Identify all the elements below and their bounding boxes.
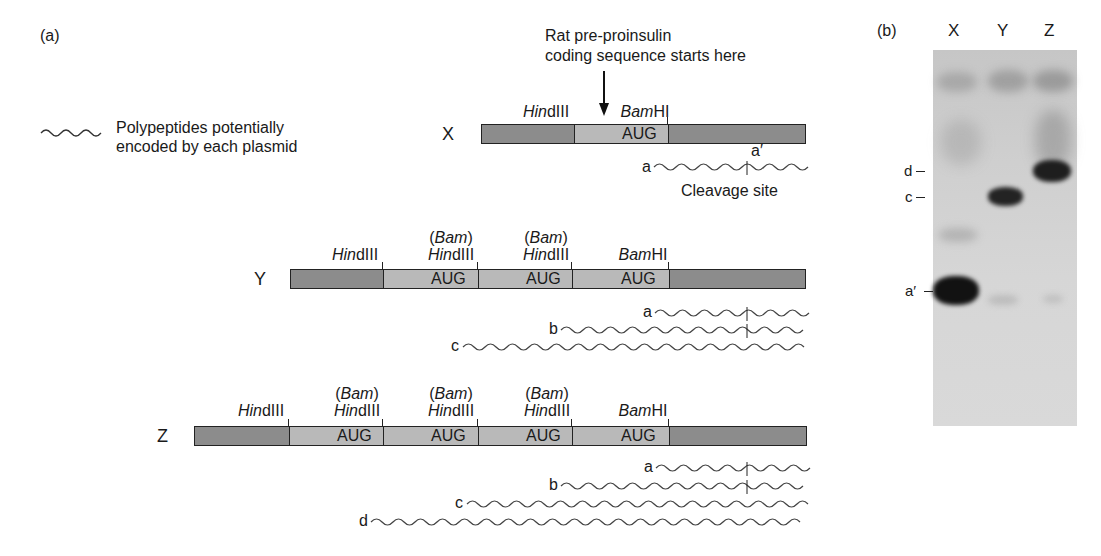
polypeptide-d-wave [371,516,807,528]
aug-codon: AUG [431,426,466,446]
hindiii-site-label: HindIII [428,402,474,420]
boundary [383,427,384,445]
boundary [478,270,479,288]
polypeptide-c-label: c [451,338,459,354]
lane-z-label: Z [1044,22,1054,40]
hindiii-site-label: HindIII [238,402,284,420]
aug-codon: AUG [526,426,561,446]
plasmid-x-label: X [442,124,454,145]
site-bam-italic: Bam [621,103,654,120]
panel-a-label: (a) [40,27,60,45]
aug-codon: AUG [621,426,656,446]
plasmid-y-bar: AUG AUG AUG [290,269,806,289]
boundary [478,427,479,445]
polypeptide-c-wave [467,498,807,510]
panel-b-label: (b) [877,22,897,40]
cleavage-site-label: Cleavage site [681,182,778,200]
aug-codon: AUG [431,269,466,289]
bamhi-site-label: BamHI [619,246,668,264]
plasmid-x-bar: AUG [481,124,806,144]
boundary [289,427,290,445]
polypeptide-c-wave [463,341,807,353]
marker-d-tick [916,171,925,172]
polypeptide-d-label: d [359,513,368,529]
plasmid-y-label: Y [254,269,266,290]
boundary [669,427,670,445]
polypeptide-a-label: a [642,159,651,175]
hindiii-site-label: HindIII [428,246,474,264]
bam-paren-label: (Bam) [429,385,473,403]
boundary [383,270,384,288]
polypeptide-a-label: a [644,459,653,475]
bam-paren-label: (Bam) [335,385,379,403]
faint-band [988,295,1018,305]
down-arrow-icon [598,71,610,117]
bam-paren-label: (Bam) [429,229,473,247]
site-hind-suffix: dIII [547,103,569,120]
polypeptide-b-label: b [549,321,558,337]
polypeptide-a-prime-label: a′ [751,143,763,159]
faint-band [937,72,977,92]
boundary [572,270,573,288]
aug-codon: AUG [526,269,561,289]
hindiii-site-label: HindIII [523,246,569,264]
polypeptide-b-wave [561,324,807,338]
marker-c-tick [916,197,925,198]
plasmid-z-label: Z [157,426,168,447]
hindiii-site-label: HindIII [523,103,569,121]
hindiii-boundary [574,125,575,143]
faint-band [1033,70,1073,92]
site-hind-italic: Hin [523,103,547,120]
faint-band [1043,295,1063,303]
annotation-line2: coding sequence starts here [545,47,746,65]
polypeptide-a-wave [656,462,807,476]
bamhi-boundary [668,125,669,143]
bam-paren-label: (Bam) [525,385,569,403]
polypeptide-a-label: a [643,304,652,320]
boundary [572,427,573,445]
aug-codon: AUG [337,426,372,446]
lane-y-label: Y [997,22,1008,40]
plasmid-z-bar: AUG AUG AUG AUG [194,426,807,446]
hindiii-site-label: HindIII [524,402,570,420]
faint-smear [941,120,981,165]
legend-text-line2: encoded by each plasmid [116,138,297,156]
marker-c-label: c [905,189,913,205]
polypeptide-a-wave [654,161,806,175]
band-x-a-prime [933,276,979,305]
polypeptide-c-label: c [455,495,463,511]
polypeptide-a-wave [655,307,807,321]
marker-d-label: d [904,163,912,179]
aug-codon: AUG [622,124,657,144]
bam-paren-label: (Bam) [524,229,568,247]
boundary [669,270,670,288]
gel-image [933,50,1077,426]
lane-x-label: X [948,22,959,40]
polypeptide-b-label: b [549,477,558,493]
band-y-c [988,187,1023,206]
faint-band [988,70,1028,92]
hindiii-site-label: HindIII [334,402,380,420]
annotation-line1: Rat pre-proinsulin [545,27,671,45]
marker-a-prime-label: a′ [905,283,916,299]
wavy-line-icon [40,127,102,137]
faint-band [939,228,977,242]
bamhi-site-label: BamHI [621,103,670,121]
band-z-d [1033,160,1071,182]
aug-codon: AUG [621,269,656,289]
legend-text-line1: Polypeptides potentially [116,119,284,137]
bamhi-site-label: BamHI [619,402,668,420]
marker-a-prime-tick [924,291,933,292]
hindiii-site-label: HindIII [332,246,378,264]
polypeptide-b-wave [561,480,807,494]
